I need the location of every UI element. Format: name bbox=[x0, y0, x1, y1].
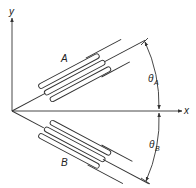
theta-a-label: θ A bbox=[148, 73, 159, 86]
theta-b-subscript: B bbox=[155, 145, 160, 152]
gauge-a bbox=[6, 30, 151, 122]
gauge-b-axis-line-inner bbox=[12, 111, 44, 128]
gauge-a-axis-line-outer bbox=[105, 40, 146, 62]
gauge-b bbox=[6, 100, 154, 188]
gauge-b-axis-line-outer bbox=[103, 159, 149, 183]
gauge-b-guide-top bbox=[102, 145, 133, 161]
gauge-a-guide-bottom bbox=[102, 62, 130, 77]
x-axis-label: x bbox=[183, 105, 190, 116]
theta-a-subscript: A bbox=[153, 79, 159, 86]
theta-b-tick bbox=[141, 178, 150, 184]
gauge-a-axis-line-inner bbox=[12, 93, 46, 111]
strain-gauge-diagram: y x A B θ A θ B bbox=[0, 0, 196, 188]
theta-b-label: θ B bbox=[149, 139, 160, 152]
y-axis-label: y bbox=[8, 6, 15, 17]
gauge-a-label: A bbox=[60, 53, 68, 64]
gauge-b-label: B bbox=[61, 157, 68, 168]
